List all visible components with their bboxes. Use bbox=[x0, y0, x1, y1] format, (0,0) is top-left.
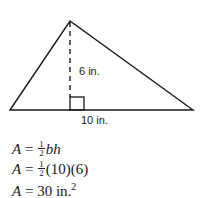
eq-exponent: 2 bbox=[71, 181, 76, 192]
eq-sign: = bbox=[25, 183, 33, 198]
eq-rest: (10)(6) bbox=[46, 161, 88, 177]
fraction-half: 12 bbox=[38, 140, 45, 157]
eq-value: 30 in. bbox=[37, 183, 71, 198]
equation-substitution: A = 12(10)(6) bbox=[12, 160, 88, 179]
fraction-half: 12 bbox=[38, 160, 45, 177]
right-angle-marker bbox=[70, 97, 84, 110]
triangle-diagram: 6 in. 10 in. bbox=[0, 0, 204, 130]
eq-rest: bh bbox=[46, 141, 61, 157]
eq-lhs: A bbox=[12, 141, 21, 157]
height-label: 6 in. bbox=[79, 65, 100, 77]
eq-sign: = bbox=[25, 161, 33, 177]
base-label: 10 in. bbox=[81, 114, 108, 126]
eq-lhs: A bbox=[12, 183, 21, 198]
equation-formula: A = 12bh bbox=[12, 140, 61, 159]
triangle bbox=[10, 21, 193, 110]
eq-sign: = bbox=[25, 141, 33, 157]
eq-lhs: A bbox=[12, 161, 21, 177]
equation-result: A = 30 in.2 bbox=[12, 178, 76, 198]
